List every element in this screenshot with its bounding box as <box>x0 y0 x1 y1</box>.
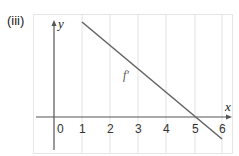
x-tick-4: 4 <box>163 122 170 136</box>
y-axis-arrow-icon <box>52 20 57 26</box>
x-tick-labels: 0 1 2 3 4 5 6 <box>57 122 226 136</box>
x-tick-1: 1 <box>79 122 86 136</box>
x-tick-2: 2 <box>107 122 114 136</box>
x-tick-5: 5 <box>192 122 199 136</box>
y-axis-label: y <box>56 16 64 31</box>
x-tick-6: 6 <box>219 122 226 136</box>
gridlines <box>82 15 222 153</box>
x-axis-arrow-icon <box>226 115 232 120</box>
x-tick-3: 3 <box>135 122 142 136</box>
x-axis-label: x <box>224 99 231 114</box>
f-prime-line <box>82 22 222 139</box>
f-prime-label: f′ <box>123 68 129 82</box>
x-tick-0: 0 <box>57 122 64 136</box>
chart-svg: y x 0 1 2 3 4 5 6 f′ <box>0 0 239 156</box>
